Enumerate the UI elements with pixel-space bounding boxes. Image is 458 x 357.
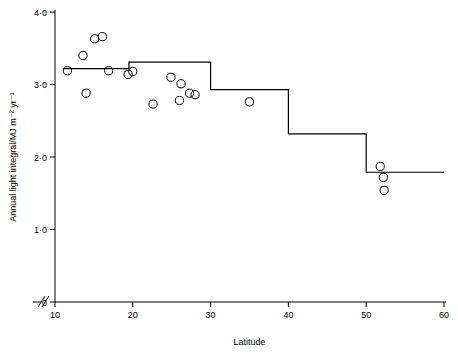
scatter-point bbox=[379, 173, 387, 181]
scatter-point bbox=[129, 67, 137, 75]
scatter-point bbox=[380, 186, 388, 194]
y-tick-label: 2·0 bbox=[34, 153, 47, 163]
x-tick-label: 40 bbox=[283, 310, 293, 320]
x-axis-title: Latitude bbox=[233, 337, 265, 347]
scatter-point bbox=[149, 100, 157, 108]
x-tick-label: 60 bbox=[439, 310, 449, 320]
x-tick-label: 30 bbox=[206, 310, 216, 320]
y-tick-label: 4·0 bbox=[34, 8, 47, 18]
x-tick-label: 50 bbox=[361, 310, 371, 320]
scatter-point bbox=[82, 89, 90, 97]
scatter-point bbox=[376, 162, 384, 170]
scatter-point bbox=[105, 67, 113, 75]
scatter-point bbox=[79, 51, 87, 59]
scatter-point bbox=[98, 33, 106, 41]
chart-container: 01·02·03·04·0102030405060LatitudeAnnual … bbox=[0, 0, 458, 357]
y-tick-label: 1·0 bbox=[34, 225, 47, 235]
scatter-point bbox=[191, 91, 199, 99]
y-tick-label: 0 bbox=[42, 298, 47, 308]
scatter-point bbox=[177, 80, 185, 88]
scatter-point bbox=[185, 89, 193, 97]
scatter-point bbox=[91, 35, 99, 43]
scatter-point bbox=[245, 98, 253, 106]
scatter-point bbox=[167, 73, 175, 81]
scatter-point bbox=[63, 67, 71, 75]
y-tick-label: 3·0 bbox=[34, 80, 47, 90]
scatter-step-chart: 01·02·03·04·0102030405060LatitudeAnnual … bbox=[0, 0, 458, 357]
scatter-point bbox=[175, 96, 183, 104]
x-tick-label: 20 bbox=[128, 310, 138, 320]
y-axis-title: Annual light integral/MJ m⁻² yr⁻¹ bbox=[8, 92, 18, 222]
step-function-line bbox=[63, 62, 444, 172]
scatter-points-group bbox=[63, 33, 388, 195]
scatter-point bbox=[124, 70, 132, 78]
x-tick-label: 10 bbox=[50, 310, 60, 320]
